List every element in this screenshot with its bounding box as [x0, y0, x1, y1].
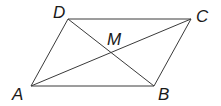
intersection-label-m: M: [107, 30, 122, 49]
vertex-label-d: D: [53, 3, 65, 22]
vertex-label-a: A: [11, 85, 23, 104]
vertex-label-c: C: [196, 7, 209, 26]
vertex-label-b: B: [158, 85, 169, 104]
edge-bc: [154, 19, 191, 86]
edge-da: [31, 19, 68, 86]
parallelogram-diagram: A B C D M: [0, 0, 221, 106]
